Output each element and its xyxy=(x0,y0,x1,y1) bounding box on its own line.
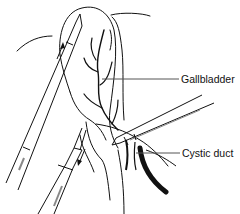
cystic-duct-label: Cystic duct xyxy=(182,147,233,159)
gallbladder-illustration: Gallbladder Cystic duct xyxy=(0,0,240,214)
liver-upper-right xyxy=(111,13,150,16)
cystic-duct-art xyxy=(140,148,166,192)
grasper-upper xyxy=(6,14,82,190)
illustration-art xyxy=(0,0,240,214)
gallbladder-label: Gallbladder xyxy=(181,73,235,85)
grasper-lower xyxy=(38,128,86,214)
dissector-right xyxy=(112,95,214,145)
liver-edge xyxy=(17,36,52,51)
